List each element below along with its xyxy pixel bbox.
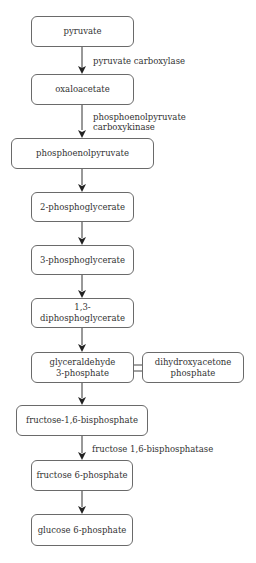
- node-fructose-1-6-bisphosphate: fructose-1,6-bisphosphate: [16, 405, 148, 436]
- node-1-3-diphosphoglycerate: 1,3-diphosphoglycerate: [31, 298, 134, 328]
- enzyme-fructose-1-6-bisphosphatase: fructose 1,6-bisphosphatase: [92, 444, 213, 454]
- node-glucose-6-phosphate: glucose 6-phosphate: [31, 514, 133, 546]
- node-glyceraldehyde-3-phosphate: glyceraldehyde 3-phosphate: [31, 352, 134, 383]
- node-pyruvate: pyruvate: [31, 16, 134, 47]
- node-fructose-6-phosphate: fructose 6-phosphate: [31, 460, 133, 491]
- node-dihydroxyacetone-phosphate: dihydroxyacetone phosphate: [142, 352, 244, 383]
- node-2-phosphoglycerate: 2-phosphoglycerate: [31, 192, 134, 222]
- node-phosphoenolpyruvate: phosphoenolpyruvate: [11, 138, 154, 169]
- enzyme-pep-carboxykinase: phosphoenolpyruvate carboxykinase: [93, 112, 186, 132]
- node-3-phosphoglycerate: 3-phosphoglycerate: [31, 245, 134, 275]
- enzyme-pyruvate-carboxylase: pyruvate carboxylase: [93, 56, 185, 66]
- node-oxaloacetate: oxaloacetate: [31, 74, 134, 105]
